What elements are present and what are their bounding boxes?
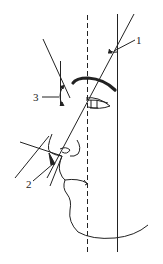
angle1-label: 1 — [136, 34, 142, 46]
angle1-arrow — [108, 49, 112, 53]
nose-outline — [48, 134, 61, 156]
angle3-label: 3 — [33, 91, 39, 103]
eye-upper-lid — [86, 98, 110, 106]
chin-jaw-curve — [64, 180, 148, 238]
facial-profile-diagram: 1 2 3 — [0, 0, 163, 264]
nose-tangent-line — [20, 142, 62, 156]
angle2-leader-line — [33, 163, 54, 181]
eyebrow — [73, 78, 115, 90]
angle2-label: 2 — [26, 178, 32, 190]
forehead-tangent-line — [43, 39, 70, 98]
nose-wing — [70, 140, 80, 156]
mouth-line — [65, 179, 87, 183]
